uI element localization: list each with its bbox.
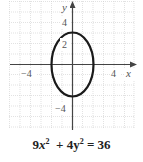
plus-sign: +: [56, 137, 63, 152]
x-tick-4: 4: [111, 68, 116, 79]
term1-exp: 2: [45, 137, 49, 146]
y-axis: [70, 1, 76, 130]
y-tick-4: 4: [62, 17, 67, 28]
y-tick-2: 2: [62, 39, 67, 50]
x-axis-label: x: [125, 67, 131, 79]
x-axis: [10, 62, 137, 68]
x-tick-neg4: −4: [21, 68, 32, 79]
ellipse-graph: 4 2 −4 −4 4 x y: [0, 0, 143, 135]
x-axis-arrow-icon: [130, 62, 137, 68]
rhs-value: 36: [98, 137, 111, 152]
equals-sign: =: [87, 137, 94, 152]
y-axis-label: y: [61, 1, 67, 13]
y-tick-neg4: −4: [55, 103, 66, 114]
term2-exp: 2: [80, 137, 84, 146]
equation-caption: 9x2 + 4y2 = 36: [0, 137, 143, 153]
y-axis-arrow-icon: [70, 1, 76, 8]
